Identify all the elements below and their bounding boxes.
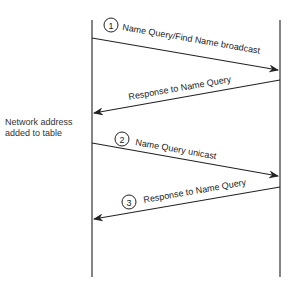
- step-2-number: 2: [119, 135, 124, 145]
- message-3: 2 Name Query unicast: [92, 132, 278, 176]
- network-address-note: Network address added to table: [5, 117, 73, 139]
- message-4-label: Response to Name Query: [143, 177, 248, 205]
- step-3-number: 3: [126, 198, 131, 208]
- message-1-label: Name Query/Find Name broadcast: [122, 22, 262, 56]
- note-line-1: Network address: [5, 117, 73, 128]
- message-1: 1 Name Query/Find Name broadcast: [92, 18, 278, 70]
- message-2: Response to Name Query: [94, 74, 280, 113]
- step-1-number: 1: [108, 21, 113, 31]
- sequence-diagram: 1 Name Query/Find Name broadcast Respons…: [0, 0, 298, 293]
- message-4: 3 Response to Name Query: [94, 177, 280, 219]
- note-line-2: added to table: [5, 128, 73, 139]
